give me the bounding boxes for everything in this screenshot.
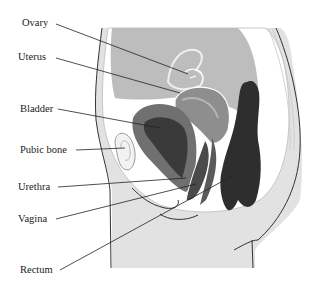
label-uterus: Uterus — [18, 52, 46, 63]
label-ovary: Ovary — [22, 18, 48, 29]
label-urethra: Urethra — [18, 182, 50, 193]
label-pubic-bone: Pubic bone — [20, 145, 67, 156]
pelvis-diagram: Ovary Uterus Bladder Pubic bone Urethra … — [0, 0, 323, 290]
label-bladder: Bladder — [20, 104, 53, 115]
label-vagina: Vagina — [18, 214, 47, 225]
label-rectum: Rectum — [20, 265, 53, 276]
